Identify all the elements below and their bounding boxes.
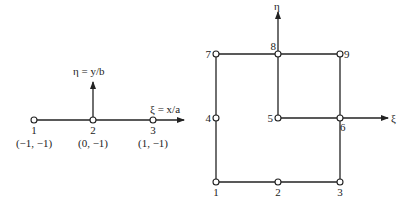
- left-node-1-coords: (−1, −1): [16, 137, 53, 150]
- node-7: [213, 51, 219, 57]
- node-2: [275, 179, 281, 185]
- left-node-3-coords: (1, −1): [138, 137, 168, 150]
- node-8-label: 8: [271, 40, 277, 52]
- node-4-label: 4: [206, 112, 212, 124]
- node-1: [213, 179, 219, 185]
- left-node-3: [150, 117, 156, 123]
- node-9: [337, 51, 343, 57]
- left-node-3-label: 3: [150, 124, 156, 136]
- left-xi-label: ξ = x/a: [150, 103, 180, 116]
- left-node-2: [90, 117, 96, 123]
- node-5: [275, 115, 281, 121]
- node-7-label: 7: [206, 48, 212, 60]
- right-xi-label: ξ: [391, 112, 396, 125]
- diagram-canvas: η = y/b ξ = x/a 1 2 3 (−1, −1) (0, −1) (…: [0, 0, 410, 204]
- node-4: [213, 115, 219, 121]
- left-node-2-label: 2: [90, 124, 96, 136]
- node-3-label: 3: [337, 186, 343, 198]
- left-node-2-coords: (0, −1): [78, 137, 108, 150]
- left-node-1: [31, 117, 37, 123]
- right-element: η ξ 1 2 3 4 5 6 7 8 9: [206, 0, 397, 198]
- left-element: η = y/b ξ = x/a 1 2 3 (−1, −1) (0, −1) (…: [16, 65, 184, 150]
- right-eta-label: η: [274, 0, 280, 12]
- node-2-label: 2: [275, 186, 281, 198]
- node-6-label: 6: [340, 121, 346, 133]
- left-node-1-label: 1: [31, 124, 37, 136]
- node-3: [337, 179, 343, 185]
- node-1-label: 1: [213, 186, 219, 198]
- node-5-label: 5: [268, 112, 274, 124]
- left-eta-label: η = y/b: [73, 65, 105, 77]
- node-9-label: 9: [344, 48, 350, 60]
